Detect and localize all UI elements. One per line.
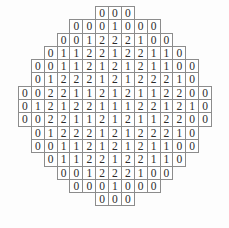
grid-cell: 1 <box>69 152 83 166</box>
grid-cell: 1 <box>69 46 83 60</box>
grid-cell: 2 <box>172 112 186 126</box>
grid-cell: 1 <box>108 99 122 113</box>
grid-cell: 1 <box>147 46 161 60</box>
grid-cell: 1 <box>160 46 174 60</box>
grid-cell: 2 <box>134 99 148 113</box>
grid-row: 000 <box>0 6 229 20</box>
grid-row: 01122122110 <box>0 152 229 166</box>
grid-cell: 0 <box>172 46 186 60</box>
grid-cell: 1 <box>82 86 96 100</box>
grid-cell: 0 <box>31 126 45 140</box>
grid-cell: 1 <box>69 112 83 126</box>
grid-cell: 2 <box>134 152 148 166</box>
grid-cell: 0 <box>82 19 96 33</box>
grid-cell: 2 <box>82 46 96 60</box>
grid-row: 0011212121100 <box>0 59 229 73</box>
grid-cell: 1 <box>108 112 122 126</box>
grid-row: 0122212122210 <box>0 126 229 140</box>
grid-cell: 1 <box>108 179 122 193</box>
grid-cell: 2 <box>44 99 58 113</box>
grid-row: 001222100 <box>0 33 229 47</box>
grid-cell: 1 <box>57 139 71 153</box>
grid-cell: 1 <box>160 139 174 153</box>
grid-row: 002211212112200 <box>0 112 229 126</box>
grid-cell: 2 <box>44 112 58 126</box>
grid-row: 0001000 <box>0 19 229 33</box>
grid-cell: 0 <box>121 192 135 206</box>
grid-cell: 2 <box>108 166 122 180</box>
grid-cell: 1 <box>160 99 174 113</box>
grid-cell: 1 <box>44 72 58 86</box>
grid-cell: 1 <box>95 72 109 86</box>
grid-cell: 2 <box>172 99 186 113</box>
grid-cell: 0 <box>31 72 45 86</box>
grid-cell: 2 <box>134 126 148 140</box>
grid-cell: 1 <box>185 99 199 113</box>
grid-cell: 2 <box>121 46 135 60</box>
grid-cell: 2 <box>121 112 135 126</box>
grid-cell: 1 <box>108 86 122 100</box>
grid-cell: 1 <box>147 152 161 166</box>
grid-cell: 2 <box>134 139 148 153</box>
grid-cell: 2 <box>82 139 96 153</box>
grid-cell: 2 <box>95 86 109 100</box>
grid-cell: 0 <box>108 6 122 20</box>
grid-cell: 2 <box>160 72 174 86</box>
grid-cell: 0 <box>198 86 212 100</box>
grid-cell: 1 <box>160 59 174 73</box>
grid-cell: 2 <box>108 126 122 140</box>
grid-cell: 2 <box>69 99 83 113</box>
grid-row: 012122111221210 <box>0 99 229 113</box>
grid-cell: 2 <box>108 72 122 86</box>
grid-cell: 2 <box>95 33 109 47</box>
grid-cell: 2 <box>95 112 109 126</box>
grid-cell: 0 <box>69 33 83 47</box>
grid-cell: 0 <box>147 33 161 47</box>
grid-cell: 0 <box>160 166 174 180</box>
grid-cell: 2 <box>160 126 174 140</box>
grid-cell: 1 <box>160 152 174 166</box>
grid-cell: 2 <box>108 59 122 73</box>
grid-cell: 0 <box>108 192 122 206</box>
value-grid-figure: 0000001000001222100011221221100011212121… <box>0 0 229 228</box>
grid-cell: 1 <box>108 19 122 33</box>
grid-cell: 2 <box>121 33 135 47</box>
grid-cell: 0 <box>134 179 148 193</box>
grid-cell: 1 <box>108 152 122 166</box>
grid-cell: 1 <box>31 99 45 113</box>
grid-row: 0011212121100 <box>0 139 229 153</box>
grid-cell: 0 <box>172 59 186 73</box>
grid-cell: 2 <box>172 86 186 100</box>
grid-cell: 1 <box>44 126 58 140</box>
grid-cell: 2 <box>134 46 148 60</box>
grid-cell: 2 <box>121 166 135 180</box>
grid-cell: 0 <box>69 166 83 180</box>
grid-cell: 0 <box>185 126 199 140</box>
grid-cell: 0 <box>95 19 109 33</box>
grid-cell: 0 <box>44 139 58 153</box>
grid-cell: 1 <box>147 86 161 100</box>
grid-cell: 1 <box>95 126 109 140</box>
grid-cell: 1 <box>57 46 71 60</box>
grid-row: 001222100 <box>0 166 229 180</box>
grid-cell: 0 <box>18 112 32 126</box>
grid-cell: 1 <box>82 112 96 126</box>
grid-row: 002211212112200 <box>0 86 229 100</box>
grid-cell: 1 <box>108 46 122 60</box>
grid-cell: 0 <box>185 86 199 100</box>
grid-cell: 0 <box>185 112 199 126</box>
grid-cell: 0 <box>185 59 199 73</box>
grid-cell: 1 <box>172 126 186 140</box>
grid-cell: 1 <box>121 72 135 86</box>
grid-cell: 1 <box>69 86 83 100</box>
grid-cell: 0 <box>69 19 83 33</box>
grid-cell: 1 <box>69 139 83 153</box>
grid-cell: 2 <box>134 72 148 86</box>
grid-cell: 1 <box>95 59 109 73</box>
grid-cell: 0 <box>31 86 45 100</box>
grid-cell: 2 <box>160 86 174 100</box>
grid-cell: 0 <box>147 179 161 193</box>
grid-cell: 2 <box>82 59 96 73</box>
grid-cell: 0 <box>121 19 135 33</box>
grid-cell: 0 <box>95 192 109 206</box>
